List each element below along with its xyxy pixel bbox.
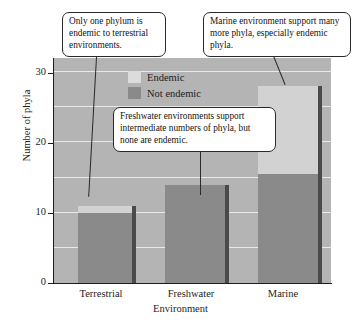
bar-shadow-freshwater xyxy=(225,185,229,283)
legend: Endemic Not endemic xyxy=(128,70,201,102)
x-tick-label-terrestrial: Terrestrial xyxy=(51,288,151,299)
y-tick-label-10: 10 xyxy=(36,207,47,218)
legend-item-endemic: Endemic xyxy=(128,70,201,84)
y-tick-0 xyxy=(48,283,54,284)
x-axis-title: Environment xyxy=(0,303,361,314)
bar-freshwater xyxy=(165,185,225,283)
chart-figure: 30 20 10 0 Number of phyla Terrestrial F… xyxy=(0,0,361,326)
y-axis-line xyxy=(53,58,54,284)
y-tick-label-20: 20 xyxy=(36,137,47,148)
bar-segment-not-endemic xyxy=(258,174,318,283)
bar-terrestrial xyxy=(78,206,132,283)
legend-swatch-not-endemic-icon xyxy=(128,87,141,99)
callout-marine-text: Marine environment support many more phy… xyxy=(210,16,339,50)
legend-label-not-endemic: Not endemic xyxy=(147,88,201,99)
y-tick-label-0: 0 xyxy=(41,277,46,288)
legend-label-endemic: Endemic xyxy=(147,72,184,83)
y-tick-20 xyxy=(48,143,54,144)
x-tick-label-freshwater: Freshwater xyxy=(141,288,241,299)
callout-marine-note: Marine environment support many more phy… xyxy=(203,12,351,57)
y-tick-label-30: 30 xyxy=(36,67,47,78)
bar-segment-endemic xyxy=(78,206,132,213)
bar-shadow-marine xyxy=(318,86,322,283)
callout-freshwater-text: Freshwater environments support intermed… xyxy=(120,111,250,145)
legend-item-not-endemic: Not endemic xyxy=(128,86,201,100)
y-tick-30 xyxy=(48,73,54,74)
bar-shadow-terrestrial xyxy=(132,206,136,283)
callout-terrestrial-text: Only one phylum is endemic to terrestria… xyxy=(69,16,148,50)
bar-segment-not-endemic xyxy=(165,185,225,283)
y-axis-title: Number of phyla xyxy=(21,56,32,196)
callout-freshwater-note: Freshwater environments support intermed… xyxy=(113,107,276,152)
leader-line-freshwater xyxy=(200,152,201,195)
callout-terrestrial-note: Only one phylum is endemic to terrestria… xyxy=(62,12,166,57)
x-axis-line xyxy=(53,283,332,284)
x-tick-label-marine: Marine xyxy=(233,288,333,299)
y-tick-10 xyxy=(48,213,54,214)
bar-segment-not-endemic xyxy=(78,213,132,283)
legend-swatch-endemic-icon xyxy=(128,71,141,83)
